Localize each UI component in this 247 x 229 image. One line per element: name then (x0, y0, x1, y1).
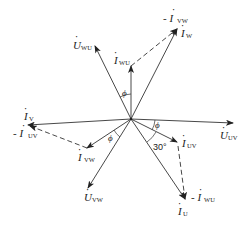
label-i-wu: I WU · (113, 46, 130, 66)
svg-text:·: · (78, 143, 81, 155)
svg-text:·: · (22, 119, 25, 131)
angle-label-phi-right: ϕ (155, 120, 160, 130)
angle-label-30: 30° (153, 142, 167, 152)
label-i-vw: I VW · (77, 143, 96, 163)
phasor-diagram: ϕ ϕ ϕ 30° U WU · I WU · - I VW · I W · I… (0, 0, 247, 229)
vector-neg-i-vw (131, 29, 177, 66)
vector-u-uv (131, 119, 233, 123)
svg-text:VW: VW (92, 196, 104, 203)
angle-arc-30 (147, 132, 156, 142)
svg-text:·: · (75, 30, 78, 42)
svg-text:UV: UV (228, 134, 238, 141)
svg-text:·: · (172, 3, 175, 15)
svg-text:·: · (222, 121, 225, 133)
svg-text:V: V (29, 115, 34, 122)
angle-label-phi-top: ϕ (122, 88, 127, 98)
svg-text:UV: UV (28, 132, 38, 139)
svg-text:VW: VW (84, 156, 96, 163)
label-u-wu: U WU · (73, 30, 92, 51)
svg-text:UV: UV (187, 142, 197, 149)
svg-text:·: · (86, 183, 89, 195)
svg-text:·: · (182, 129, 185, 141)
svg-text:WU: WU (81, 44, 92, 51)
label-neg-i-uv: - I UV · (13, 119, 38, 139)
label-i-uv: I UV · (181, 129, 197, 149)
vector-i-uv (131, 119, 177, 142)
vector-i-v (28, 119, 131, 125)
svg-text:·: · (199, 183, 202, 195)
vector-u-wu (95, 46, 131, 119)
svg-text:·: · (181, 19, 184, 31)
vector-neg-i-wu (178, 146, 185, 199)
svg-text:·: · (114, 46, 117, 58)
label-neg-i-vw: - I VW · (163, 3, 189, 24)
svg-text:·: · (178, 197, 181, 209)
vector-i-w (131, 29, 177, 119)
label-neg-i-wu: - I WU · (191, 183, 215, 203)
label-u-vw: U VW · (84, 183, 104, 203)
svg-text:W: W (186, 32, 193, 39)
vector-u-vw (88, 119, 131, 188)
svg-text:U: U (183, 210, 188, 217)
vector-i-u (131, 119, 185, 199)
angle-arc-phi-left (114, 130, 120, 137)
svg-text:WU: WU (119, 59, 130, 66)
svg-text:·: · (24, 102, 27, 114)
svg-text:WU: WU (204, 196, 215, 203)
origin-point (130, 118, 132, 120)
label-u-uv: U UV · (220, 121, 238, 141)
angle-label-phi-left: ϕ (108, 133, 113, 143)
label-i-u: I U · (177, 197, 188, 217)
